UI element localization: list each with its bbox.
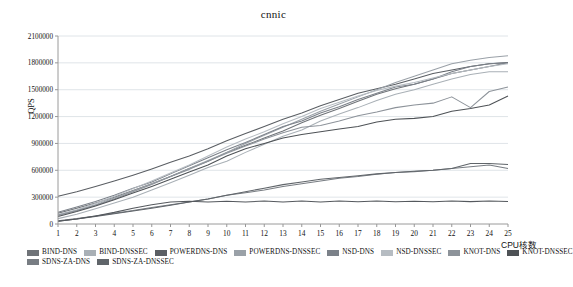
svg-text:5: 5 (131, 229, 135, 238)
legend-item[interactable]: POWERDNS-DNS (155, 248, 228, 258)
legend-item[interactable]: KNOT-DNSSEC (507, 248, 572, 258)
legend-item[interactable]: SDNS-ZA-DNSSEC (97, 258, 174, 268)
svg-text:6: 6 (150, 229, 154, 238)
legend-label: KNOT-DNS (463, 248, 500, 258)
line-chart-svg: 0300000600000900000120000015000001800000… (0, 22, 547, 244)
legend-item[interactable]: NSD-DNS (327, 248, 374, 258)
svg-text:24: 24 (486, 229, 494, 238)
x-axis-ticks: 1234567891011121314151617181920212223242… (56, 224, 512, 238)
svg-text:13: 13 (279, 229, 287, 238)
svg-text:16: 16 (336, 229, 344, 238)
svg-text:0: 0 (49, 221, 53, 229)
svg-text:600000: 600000 (31, 167, 53, 175)
legend-color-swatch (507, 250, 519, 256)
chart-title: cnnic (0, 8, 547, 20)
legend-color-swatch (27, 259, 39, 265)
series-line (58, 72, 508, 219)
legend-item[interactable]: BIND-DNSSEC (84, 248, 148, 258)
legend-color-swatch (381, 250, 393, 256)
legend-label: BIND-DNSSEC (99, 248, 148, 258)
series-line (58, 64, 508, 215)
legend-color-swatch (84, 250, 96, 256)
series-line (58, 164, 508, 222)
legend-item[interactable]: NSD-DNSSEC (381, 248, 441, 258)
legend-label: BIND-DNS (42, 248, 77, 258)
legend-item[interactable]: KNOT-DNS (448, 248, 500, 258)
legend-color-swatch (327, 250, 339, 256)
svg-text:15: 15 (317, 229, 325, 238)
series-line (58, 201, 508, 221)
svg-text:10: 10 (223, 229, 231, 238)
svg-text:21: 21 (429, 229, 437, 238)
svg-text:12: 12 (261, 229, 269, 238)
svg-text:17: 17 (354, 229, 362, 238)
svg-text:4: 4 (112, 229, 116, 238)
legend-row: SDNS-ZA-DNSSDNS-ZA-DNSSEC (27, 258, 542, 268)
svg-text:8: 8 (187, 229, 191, 238)
legend-label: POWERDNS-DNS (170, 248, 228, 258)
svg-text:14: 14 (298, 229, 306, 238)
svg-text:25: 25 (504, 229, 512, 238)
legend-label: POWERDNS-DNSSEC (249, 248, 320, 258)
gridlines (58, 36, 508, 197)
series-line (58, 96, 508, 216)
legend-item[interactable]: POWERDNS-DNSSEC (234, 248, 320, 258)
svg-text:18: 18 (373, 229, 381, 238)
svg-text:2100000: 2100000 (28, 33, 54, 41)
data-series-group (58, 56, 508, 222)
svg-text:1: 1 (56, 229, 60, 238)
legend-color-swatch (155, 250, 167, 256)
svg-text:1800000: 1800000 (28, 59, 54, 67)
svg-text:300000: 300000 (31, 194, 53, 202)
svg-text:7: 7 (169, 229, 173, 238)
svg-text:900000: 900000 (31, 140, 53, 148)
legend-color-swatch (27, 250, 39, 256)
y-axis-ticks: 0300000600000900000120000015000001800000… (28, 33, 58, 229)
legend-color-swatch (448, 250, 460, 256)
legend-item[interactable]: BIND-DNS (27, 248, 77, 258)
svg-text:22: 22 (448, 229, 456, 238)
legend-color-swatch (234, 250, 246, 256)
clipped-header-strip (0, 0, 547, 7)
svg-text:11: 11 (242, 229, 249, 238)
legend-label: SDNS-ZA-DNS (42, 258, 90, 268)
svg-text:2: 2 (75, 229, 79, 238)
legend-item[interactable]: SDNS-ZA-DNS (27, 258, 90, 268)
svg-text:20: 20 (411, 229, 419, 238)
svg-text:19: 19 (392, 229, 400, 238)
svg-text:3: 3 (94, 229, 98, 238)
y-axis-label: QPS (26, 86, 36, 126)
legend-label: NSD-DNSSEC (396, 248, 441, 258)
chart-legend: BIND-DNSBIND-DNSSECPOWERDNS-DNSPOWERDNS-… (27, 248, 542, 267)
svg-text:9: 9 (206, 229, 210, 238)
legend-label: KNOT-DNSSEC (522, 248, 572, 258)
legend-label: SDNS-ZA-DNSSEC (112, 258, 174, 268)
svg-text:23: 23 (467, 229, 475, 238)
legend-row: BIND-DNSBIND-DNSSECPOWERDNS-DNSPOWERDNS-… (27, 248, 542, 258)
legend-color-swatch (97, 259, 109, 265)
plot-area: 0300000600000900000120000015000001800000… (0, 22, 547, 244)
legend-label: NSD-DNS (342, 248, 374, 258)
